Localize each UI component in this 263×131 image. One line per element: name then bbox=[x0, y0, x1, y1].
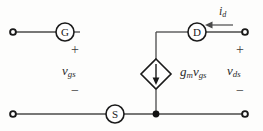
vgs-subscript: gs bbox=[68, 69, 76, 79]
drain-current-arrow bbox=[205, 22, 233, 29]
right-port-plus-sign: + bbox=[236, 43, 244, 57]
drain-source-voltage-label: vds bbox=[227, 64, 241, 79]
drain-terminal-letter: D bbox=[193, 26, 201, 38]
rail-junction-dot bbox=[153, 111, 160, 118]
source-terminal-letter: S bbox=[112, 108, 118, 120]
drain-current-subscript: d bbox=[222, 10, 226, 19]
circuit-diagram: G D bbox=[0, 0, 263, 131]
left-port-plus-sign: + bbox=[71, 43, 79, 57]
gate-source-voltage-label: vgs bbox=[62, 64, 76, 79]
right-port-minus-sign: − bbox=[236, 84, 244, 98]
circuit-schematic-svg: G D bbox=[0, 0, 263, 131]
source-open-node-left bbox=[10, 111, 16, 117]
left-port-minus-sign: − bbox=[71, 84, 79, 98]
drain-branch: D bbox=[156, 23, 248, 59]
gm-vgs-subscript: gs bbox=[199, 70, 207, 80]
source-rail: S bbox=[10, 89, 248, 123]
transconductance-expression-label: gmvgs bbox=[180, 65, 207, 80]
source-open-node-right bbox=[242, 111, 248, 117]
dependent-current-source bbox=[141, 59, 171, 89]
current-arrow-head bbox=[205, 22, 213, 29]
drain-current-label: id bbox=[219, 5, 226, 19]
gate-open-node bbox=[10, 29, 16, 35]
gate-terminal-letter: G bbox=[61, 26, 69, 38]
gate-branch: G bbox=[10, 23, 80, 41]
vds-subscript: ds bbox=[233, 69, 241, 79]
drain-open-node bbox=[242, 29, 248, 35]
